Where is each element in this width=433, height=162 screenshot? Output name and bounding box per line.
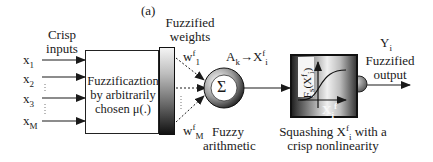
squashing-caption: Squashing Xfi with a crisp nonlinearity xyxy=(278,125,388,153)
squash-x-label: Xif xyxy=(322,103,337,117)
squash-y-label: Fs(Xfi) xyxy=(300,68,314,98)
output-label-line1: Fuzzified xyxy=(362,54,418,68)
squashing-caption-line1: Squashing Xfi with a xyxy=(278,125,388,139)
output-label-line2: output xyxy=(362,68,418,82)
output-symbol: Yi xyxy=(380,36,392,50)
squashing-caption-line2: crisp nonlinearity xyxy=(278,139,388,153)
output-label: Fuzzified output xyxy=(362,54,418,82)
